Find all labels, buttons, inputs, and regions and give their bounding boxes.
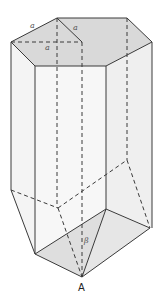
label-edge-a-1: a [30,21,35,30]
label-edge-a-3: a [45,43,50,52]
label-vertex-a: A [78,282,85,293]
right-side-face [106,42,152,228]
label-edge-a-2: a [73,23,78,32]
hexagonal-prism-diagram: a a a β A [0,0,163,301]
label-angle-beta: β [83,236,89,245]
